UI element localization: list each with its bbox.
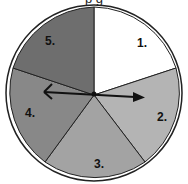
spinner-diagram: 1. 2. 3. 4. 5. — [0, 0, 188, 184]
spinner-pivot — [92, 92, 97, 97]
section-label-2: 2. — [157, 110, 167, 124]
section-label-5: 5. — [45, 34, 55, 48]
section-label-3: 3. — [94, 157, 104, 171]
section-label-1: 1. — [137, 36, 147, 50]
section-label-4: 4. — [25, 106, 35, 120]
